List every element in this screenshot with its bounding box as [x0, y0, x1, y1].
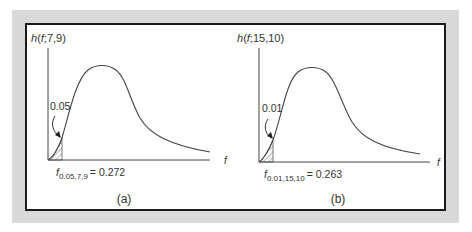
y-axis-label: h(f;15,10) — [237, 32, 284, 44]
density-curve — [259, 68, 420, 163]
y-axis-label: h(f;7,9) — [31, 32, 66, 44]
shaded-tail-area — [259, 140, 273, 162]
critical-value-label: f0.01,15,10= 0.263 — [264, 168, 342, 183]
arrow-head — [267, 132, 273, 139]
shaded-tail-area — [48, 138, 62, 160]
density-curve — [48, 66, 210, 161]
area-label: 0.05 — [50, 100, 71, 112]
arrow-head — [55, 131, 61, 138]
f-distribution-diagram: h(f;7,9) f 0.05 f0.05,7,9= 0.272 (a) h(f… — [0, 0, 472, 232]
panel-b: h(f;15,10) f 0.01 f0.01,15,10= 0.263 (b) — [237, 32, 441, 206]
critical-value-label: f0.05,7,9= 0.272 — [56, 166, 125, 181]
panel-caption: (b) — [331, 192, 346, 206]
x-axis-label: f — [224, 155, 228, 166]
area-label: 0.01 — [262, 102, 283, 114]
x-axis-label: f — [437, 157, 441, 168]
panel-a: h(f;7,9) f 0.05 f0.05,7,9= 0.272 (a) — [31, 32, 228, 206]
panel-caption: (a) — [117, 192, 132, 206]
